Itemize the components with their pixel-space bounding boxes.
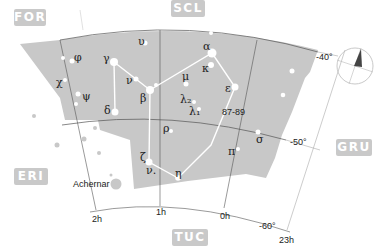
ra-label: 1h: [156, 207, 166, 217]
star-label: α: [203, 40, 211, 53]
star-label: υ: [138, 35, 145, 48]
star-nu: [134, 77, 139, 82]
dec-label: -60°: [259, 221, 276, 231]
star-label: κ: [202, 62, 209, 75]
neighbor-label-for: FOR: [14, 9, 46, 26]
star-label: 87-89: [222, 107, 245, 117]
star-label: σ: [256, 133, 264, 146]
ra-line-top-ext: [80, 10, 83, 30]
compass-icon: [337, 48, 373, 84]
star-gamma: [110, 58, 118, 66]
star-label: χ: [56, 76, 63, 89]
star-label: η: [175, 167, 182, 180]
star-label: ζ: [140, 151, 146, 164]
star-label: λ₁: [189, 105, 200, 118]
star-iota: [290, 69, 295, 74]
star-label: ν: [126, 74, 133, 87]
star-o1: [55, 143, 60, 148]
star-chi: [63, 78, 67, 82]
star-label: μ: [182, 70, 189, 83]
constellation-region: [20, 31, 318, 189]
star-o4: [110, 174, 113, 177]
star-label: β: [140, 92, 146, 105]
star-o3: [97, 151, 101, 155]
star-o5: [32, 114, 36, 118]
star-pi: [236, 147, 240, 151]
ra-label: 0h: [220, 211, 230, 221]
named-star-label: Achernar: [73, 179, 110, 189]
star-rho: [169, 129, 173, 133]
neighbor-label-gru: GRU: [336, 139, 372, 156]
star-label: δ: [104, 104, 111, 117]
ra-label: 23h: [279, 235, 294, 245]
star-psi2: [74, 102, 78, 106]
star-achernar: [111, 179, 122, 190]
dec-label: -50°: [290, 137, 307, 147]
neighbor-label-eri: ERI: [14, 168, 48, 185]
star-kappa: [208, 62, 214, 68]
star-o6: [93, 126, 97, 130]
star-psi: [76, 92, 81, 97]
star-chart: φυγαχνκμψβελ₂λ₁δ87-89ρπσζν.ηAchernar2h1h…: [0, 0, 377, 251]
star-phi2: [61, 56, 65, 60]
star-label: ν.: [146, 164, 156, 177]
star-epsilon: [232, 84, 239, 91]
neighbor-label-tuc: TUC: [172, 229, 208, 246]
star-label: π: [228, 145, 235, 158]
star-top2: [246, 33, 249, 36]
star-o2: [82, 137, 87, 142]
star-beta: [146, 86, 154, 94]
star-s2: [281, 93, 286, 98]
star-label: γ: [103, 52, 110, 65]
star-label: ε: [225, 82, 231, 95]
star-label: ψ: [82, 90, 91, 103]
star-delta: [112, 109, 119, 116]
star-label: φ: [74, 51, 82, 64]
ra-label: 2h: [92, 214, 102, 224]
star-label: ρ: [163, 122, 169, 135]
dec-label: -40°: [316, 52, 333, 62]
star-top1: [209, 31, 213, 35]
neighbor-label-scl: SCL: [171, 0, 205, 17]
star-lambda2: [192, 100, 196, 104]
star-beta2: [154, 83, 158, 87]
